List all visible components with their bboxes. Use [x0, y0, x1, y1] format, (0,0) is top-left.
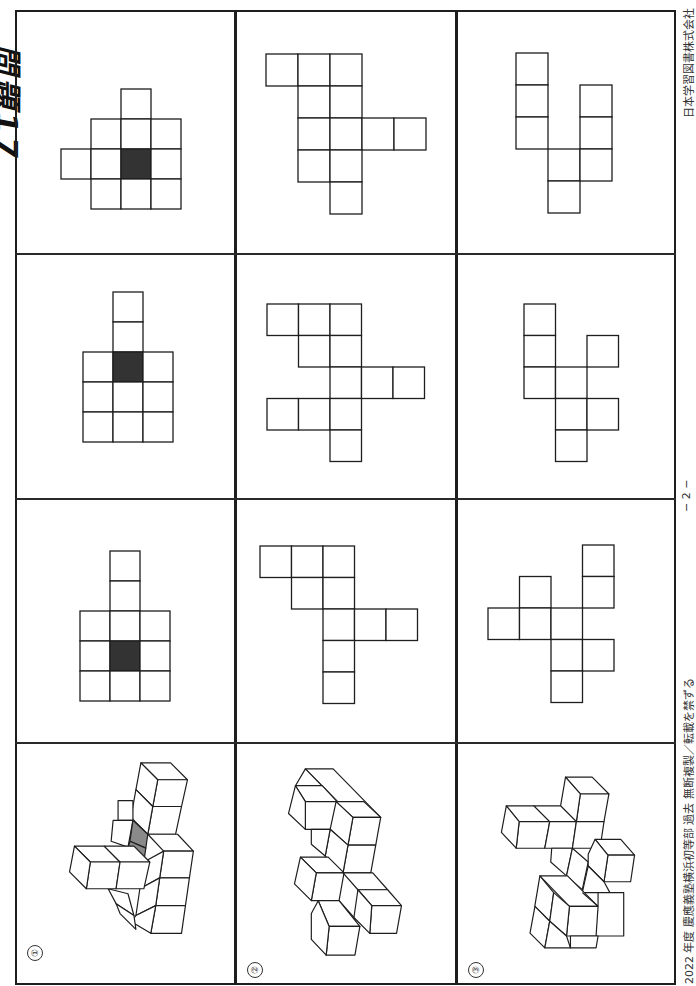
net-square: [83, 412, 113, 442]
net-square: [330, 336, 362, 368]
net-square: [330, 150, 362, 182]
net-square: [80, 671, 110, 701]
problem-2-cube-figure: [237, 745, 455, 983]
net-square: [121, 119, 151, 149]
net-square: [524, 336, 556, 368]
net-square: [556, 399, 588, 431]
cube-net-option[interactable]: [524, 304, 619, 462]
footer-publisher: 日本学習図書株式会社: [680, 8, 696, 118]
net-square: [330, 367, 362, 399]
net-square: [520, 608, 552, 640]
net-square: [355, 609, 387, 641]
net-square: [330, 399, 362, 431]
net-square: [323, 546, 355, 578]
net-square: [143, 412, 173, 442]
net-square: [91, 149, 121, 179]
net-square: [551, 640, 583, 672]
net-square: [113, 292, 143, 322]
net-square: [587, 336, 619, 368]
footer-page-number: − 2 −: [680, 480, 693, 512]
problem-3-figure-cell[interactable]: ③: [458, 745, 675, 983]
net-square: [121, 179, 151, 209]
net-square: [110, 671, 140, 701]
net-square: [516, 117, 548, 149]
net-square: [583, 640, 615, 672]
problem-2-figure-cell[interactable]: ②: [237, 745, 455, 983]
net-square: [548, 181, 580, 213]
net-square: [110, 611, 140, 641]
net-square: [83, 382, 113, 412]
net-square: [488, 608, 520, 640]
problem-1-cube-figure: [17, 745, 235, 983]
net-square: [516, 85, 548, 117]
net-square-shaded: [121, 149, 151, 179]
cube-net-option[interactable]: [267, 304, 425, 462]
cube-net-option[interactable]: [516, 53, 612, 213]
net-square: [298, 86, 330, 118]
net-square: [330, 54, 362, 86]
net-square: [80, 611, 110, 641]
cube-net-option[interactable]: [61, 89, 181, 209]
net-square: [551, 671, 583, 703]
net-square: [298, 54, 330, 86]
net-square: [151, 179, 181, 209]
net-square: [394, 118, 426, 150]
net-square: [110, 551, 140, 581]
net-square: [260, 546, 292, 578]
net-square: [110, 581, 140, 611]
net-square: [267, 399, 299, 431]
net-square: [91, 119, 121, 149]
net-square: [548, 149, 580, 181]
net-square: [556, 430, 588, 462]
net-square: [140, 671, 170, 701]
net-square: [292, 578, 324, 610]
cube-net-option[interactable]: [488, 545, 614, 703]
net-square: [299, 304, 331, 336]
net-square: [323, 641, 355, 673]
net-square: [580, 85, 612, 117]
net-square: [330, 182, 362, 214]
net-square: [113, 382, 143, 412]
net-square: [580, 149, 612, 181]
net-square: [80, 641, 110, 671]
net-square: [121, 89, 151, 119]
net-square: [583, 577, 615, 609]
net-square: [583, 545, 615, 577]
cube-net-option[interactable]: [266, 54, 426, 214]
net-square: [143, 352, 173, 382]
net-square: [524, 304, 556, 336]
net-square: [362, 118, 394, 150]
net-square: [587, 399, 619, 431]
net-square: [91, 179, 121, 209]
net-square: [266, 54, 298, 86]
net-square: [140, 641, 170, 671]
net-square: [393, 367, 425, 399]
net-square: [299, 336, 331, 368]
cube-net-option[interactable]: [260, 546, 418, 704]
net-square: [323, 672, 355, 704]
net-square: [61, 149, 91, 179]
net-square: [151, 119, 181, 149]
net-square: [520, 577, 552, 609]
net-square: [516, 53, 548, 85]
net-square: [151, 149, 181, 179]
problem-3-cube-figure: [458, 745, 675, 983]
cube-net-option[interactable]: [83, 292, 173, 442]
net-square: [267, 304, 299, 336]
footer-copyright: 2022 年度 慶應義塾横浜初等部 過去 無断複製／転載を禁ずる: [680, 678, 696, 984]
net-square: [330, 430, 362, 462]
net-square: [580, 117, 612, 149]
net-square: [323, 609, 355, 641]
net-square: [551, 608, 583, 640]
net-square: [299, 399, 331, 431]
net-square: [330, 118, 362, 150]
net-square: [323, 578, 355, 610]
net-square: [524, 367, 556, 399]
net-square: [298, 150, 330, 182]
net-square: [113, 412, 143, 442]
net-square: [113, 322, 143, 352]
net-square: [140, 611, 170, 641]
net-square-shaded: [113, 352, 143, 382]
cube-net-option[interactable]: [80, 551, 170, 701]
problem-1-figure-cell[interactable]: ①: [17, 745, 235, 983]
